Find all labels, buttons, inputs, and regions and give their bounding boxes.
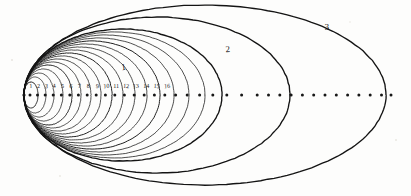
axis-dot <box>95 94 98 97</box>
curve-label-2: 2 <box>225 44 230 54</box>
axis-tick-label: 6 <box>69 83 72 89</box>
axis-dot <box>186 94 189 97</box>
axis-dot <box>256 94 259 97</box>
axis-dot <box>324 94 327 97</box>
axis-tick-label: 16 <box>164 83 170 89</box>
curve-label-group: 123 <box>121 22 330 72</box>
axis-dot <box>86 94 89 97</box>
axis-dot <box>335 94 338 97</box>
axis-dot <box>36 94 39 97</box>
axis-dot <box>312 94 315 97</box>
axis-dot <box>68 94 71 97</box>
axis-dot <box>153 94 156 97</box>
axis-dot <box>369 94 372 97</box>
focus-point <box>22 93 25 96</box>
axis-dot <box>113 94 116 97</box>
axis-tick-label: 9 <box>96 83 99 89</box>
axis-dot <box>290 94 293 97</box>
axis-dot <box>163 94 166 97</box>
axis-dot <box>278 94 281 97</box>
axis-tick-label: 3 <box>45 83 48 89</box>
axis-dot <box>44 94 47 97</box>
figure-canvas: 12345678910111213141516 123 <box>0 0 411 196</box>
orbit-inner-orbit-2 <box>24 77 46 113</box>
axis-dot <box>123 94 126 97</box>
axis-tick-label: 15 <box>153 83 159 89</box>
axis-dot <box>390 94 393 97</box>
axis-tick-label: 12 <box>123 83 129 89</box>
curve-label-1: 1 <box>121 62 127 73</box>
axis-dot <box>211 94 214 97</box>
axis-tick-label: 5 <box>61 83 64 89</box>
axis-dot-group <box>29 94 393 97</box>
axis-tick-label: 10 <box>103 83 109 89</box>
axis-tick-label: 7 <box>78 83 81 89</box>
axis-dot <box>174 94 177 97</box>
axis-tick-label: 1 <box>29 83 32 89</box>
axis-dot <box>346 94 349 97</box>
axis-dot <box>240 94 243 97</box>
axis-dot <box>301 94 304 97</box>
axis-tick-label: 4 <box>52 83 55 89</box>
axis-tick-label: 2 <box>37 83 40 89</box>
axis-tick-label: 8 <box>87 83 90 89</box>
axis-dot <box>380 94 383 97</box>
orbit-labelled-orbit-2 <box>24 17 290 173</box>
axis-tick-label: 13 <box>133 83 139 89</box>
axis-dot <box>60 94 63 97</box>
axis-dot <box>143 94 146 97</box>
axis-tick-label: 11 <box>113 83 119 89</box>
confocal-ellipse-diagram: 12345678910111213141516 123 <box>0 0 411 196</box>
axis-dot <box>52 94 55 97</box>
curve-label-3: 3 <box>324 22 329 32</box>
axis-dot <box>267 94 270 97</box>
axis-tick-label: 14 <box>143 83 149 89</box>
axis-dot <box>198 94 201 97</box>
axis-dot <box>77 94 80 97</box>
axis-dot <box>225 94 228 97</box>
axis-dot <box>357 94 360 97</box>
axis-dot <box>104 94 107 97</box>
axis-dot <box>133 94 136 97</box>
axis-dot <box>29 94 32 97</box>
